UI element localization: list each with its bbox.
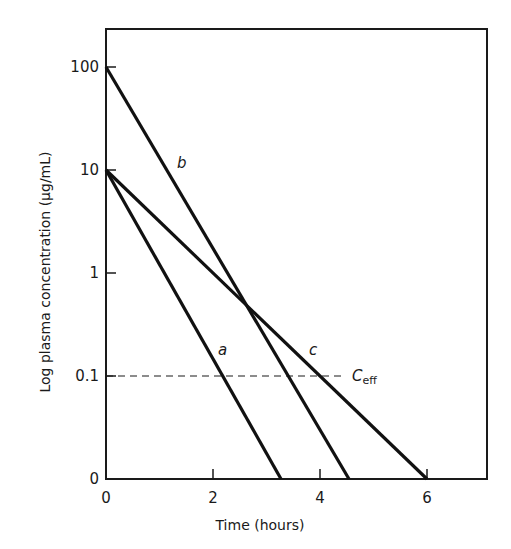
- x-tick-label-2: 2: [208, 489, 218, 507]
- line-b: [106, 67, 349, 479]
- ceff-label: Ceff: [352, 367, 377, 387]
- x-tick-label-6: 6: [422, 489, 432, 507]
- x-axis-title: Time (hours): [215, 517, 305, 533]
- line-b-label: b: [177, 154, 187, 172]
- y-tick-label-0.1: 0.1: [75, 367, 99, 385]
- y-tick-label-100: 100: [70, 58, 99, 76]
- x-tick-label-0: 0: [101, 489, 111, 507]
- y-ticks: [106, 67, 116, 376]
- y-tick-label-1: 1: [89, 264, 99, 282]
- concentration-time-chart: 100 10 1 0.1 0 0 2 4 6 Time (hours) Log …: [0, 0, 511, 549]
- x-ticks: [213, 469, 427, 479]
- x-tick-label-4: 4: [315, 489, 325, 507]
- y-axis-title: Log plasma concentration (μg/mL): [37, 151, 53, 392]
- line-a-label: a: [218, 341, 227, 359]
- y-tick-label-0: 0: [89, 470, 99, 488]
- y-tick-label-10: 10: [80, 161, 99, 179]
- plot-frame: [106, 29, 487, 479]
- line-c: [106, 170, 427, 479]
- line-c-label: c: [309, 341, 318, 359]
